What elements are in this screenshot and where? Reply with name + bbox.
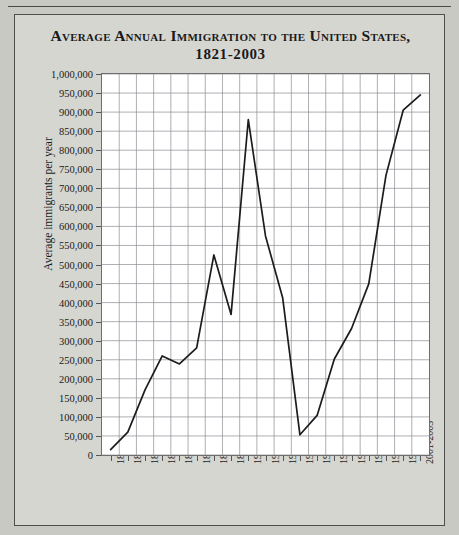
x-tick-mark	[386, 456, 387, 461]
plot-frame	[101, 73, 430, 456]
x-tick-mark	[317, 456, 318, 461]
x-tick-mark	[420, 456, 421, 461]
top-divider-rule	[8, 6, 451, 7]
x-tick-mark	[162, 456, 163, 461]
x-tick-mark	[128, 456, 129, 461]
horizontal-gridlines	[102, 74, 429, 455]
x-tick-mark	[369, 456, 370, 461]
x-tick-mark	[111, 456, 112, 461]
x-tick-mark	[179, 456, 180, 461]
x-tick-mark	[352, 456, 353, 461]
x-tick-mark	[248, 456, 249, 461]
x-tick-mark	[197, 456, 198, 461]
x-tick-mark	[300, 456, 301, 461]
x-tick-mark	[214, 456, 215, 461]
line-chart-svg	[102, 74, 429, 455]
x-tick-mark	[403, 456, 404, 461]
x-tick-mark	[334, 456, 335, 461]
x-tick-mark	[145, 456, 146, 461]
x-tick-mark	[231, 456, 232, 461]
figure-container: Average Annual Immigration to the United…	[14, 14, 445, 526]
x-tick-mark	[266, 456, 267, 461]
immigration-series-line	[111, 95, 421, 450]
x-tick-mark	[283, 456, 284, 461]
chart-plot-region: Average immigrants per year 050,000100,0…	[15, 15, 446, 527]
